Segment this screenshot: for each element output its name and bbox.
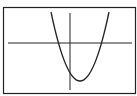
- plot-area: [0, 0, 137, 96]
- graph-window: [0, 0, 137, 96]
